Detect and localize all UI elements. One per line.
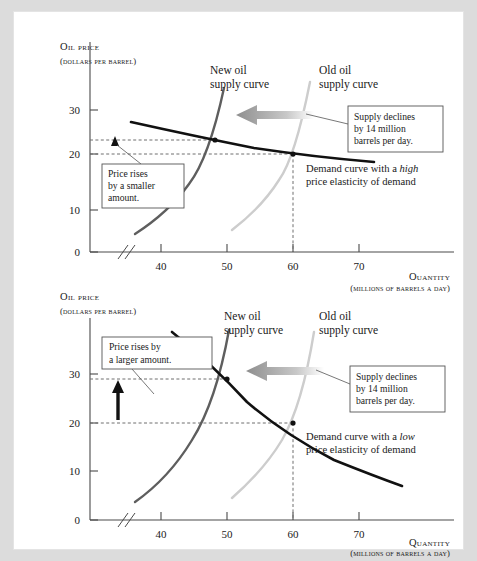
new-supply-label-line2-2: supply curve	[224, 324, 283, 337]
equilibrium-point-new-1	[212, 137, 217, 142]
y-axis-title-1: Oil price	[60, 41, 99, 52]
demand-label-suffix-2: price elasticity of demand	[306, 444, 416, 455]
y-tick-label-30-2: 30	[69, 368, 81, 380]
price-rise-line2-1: by a smaller	[108, 180, 156, 191]
price-rise-arrow-head-2	[112, 380, 124, 393]
demand-label-prefix-2: Demand curve with a	[306, 431, 400, 442]
supply-shift-arrow-2	[246, 361, 324, 381]
y-tick-label-0-1: 0	[75, 246, 81, 258]
price-rise-marker-1	[111, 136, 119, 146]
demand-label-prefix-1: Demand curve with a	[306, 163, 400, 174]
x-tick-label-60-1: 60	[288, 260, 300, 272]
demand-curve-1	[131, 122, 374, 162]
x-tick-label-50-1: 50	[222, 260, 234, 272]
equilibrium-point-old-1	[290, 151, 295, 156]
x-tick-label-50-2: 50	[222, 528, 234, 540]
old-supply-label-line1-1: Old oil	[319, 64, 351, 76]
demand-curve-label-1: Demand curve with a high price elasticit…	[306, 163, 418, 187]
supply-decline-callout-1: Supply declines by 14 million barrels pe…	[306, 106, 443, 152]
price-rise-line3-1: amount.	[108, 192, 139, 203]
old-supply-curve-1	[232, 82, 310, 230]
y-tick-label-10-1: 10	[69, 204, 81, 216]
y-axis-subtitle-1: (dollars per barrel)	[60, 56, 136, 66]
old-supply-label-line2-2: supply curve	[319, 324, 378, 337]
y-tick-label-20-2: 20	[69, 417, 81, 429]
price-rise-line2-2: a larger amount.	[109, 354, 171, 365]
new-supply-label-line1-2: New oil	[224, 310, 261, 322]
price-rise-line1-1: Price rises	[108, 168, 148, 179]
supply-decline-line2-2: by 14 million	[356, 383, 408, 394]
old-supply-label-line2-1: supply curve	[319, 78, 378, 91]
x-tick-label-70-2: 70	[354, 528, 366, 540]
demand-label-suffix-1: price elasticity of demand	[306, 176, 416, 187]
supply-decline-line1-2: Supply declines	[356, 371, 417, 382]
equilibrium-point-new-2	[224, 376, 229, 381]
supply-decline-line3-2: barrels per day.	[356, 395, 415, 406]
x-tick-label-40-2: 40	[156, 528, 168, 540]
supply-decline-line3-1: barrels per day.	[354, 135, 413, 146]
svg-text:Demand curve with a low: Demand curve with a low	[306, 431, 415, 442]
x-axis-subtitle-wrap-2: (millions of barrels a day)	[14, 545, 463, 561]
figure-page: Oil price (dollars per barrel) 0 10 20 3…	[14, 12, 463, 549]
demand-label-emphasis-2: low	[400, 431, 415, 442]
demand-label-emphasis-1: high	[400, 163, 419, 174]
price-rise-callout-1: Price rises by a smaller amount.	[102, 136, 184, 208]
new-supply-label-line1-1: New oil	[210, 64, 247, 76]
svg-text:Demand curve with a high: Demand curve with a high	[306, 163, 418, 174]
x-tick-label-70-1: 70	[354, 260, 366, 272]
old-supply-curve-2	[232, 332, 314, 498]
old-supply-label-line1-2: Old oil	[319, 310, 351, 322]
demand-curve-label-2: Demand curve with a low price elasticity…	[306, 431, 416, 455]
new-supply-curve-1	[135, 88, 224, 234]
x-tick-label-40-1: 40	[156, 260, 168, 272]
y-tick-label-30-1: 30	[69, 104, 81, 116]
y-tick-label-20-1: 20	[69, 148, 81, 160]
x-axis-subtitle-2: (millions of barrels a day)	[350, 548, 450, 558]
equilibrium-point-old-2	[290, 420, 295, 425]
supply-decline-callout-2: Supply declines by 14 million barrels pe…	[316, 366, 445, 412]
price-rise-line1-2: Price rises by	[109, 341, 161, 352]
elastic-demand-chart-panel: Oil price (dollars per barrel) 0 10 20 3…	[14, 12, 463, 280]
y-axis-subtitle-2: (dollars per barrel)	[60, 306, 136, 316]
supply-decline-line1-1: Supply declines	[354, 111, 415, 122]
new-supply-label-line2-1: supply curve	[210, 78, 269, 91]
x-tick-label-60-2: 60	[288, 528, 300, 540]
y-tick-label-0-2: 0	[75, 514, 81, 526]
y-axis-title-2: Oil price	[60, 291, 99, 302]
supply-decline-line2-1: by 14 million	[354, 123, 406, 134]
inelastic-demand-chart-panel: Oil price (dollars per barrel) 0 10 20 3…	[14, 274, 463, 549]
y-tick-label-10-2: 10	[69, 465, 81, 477]
